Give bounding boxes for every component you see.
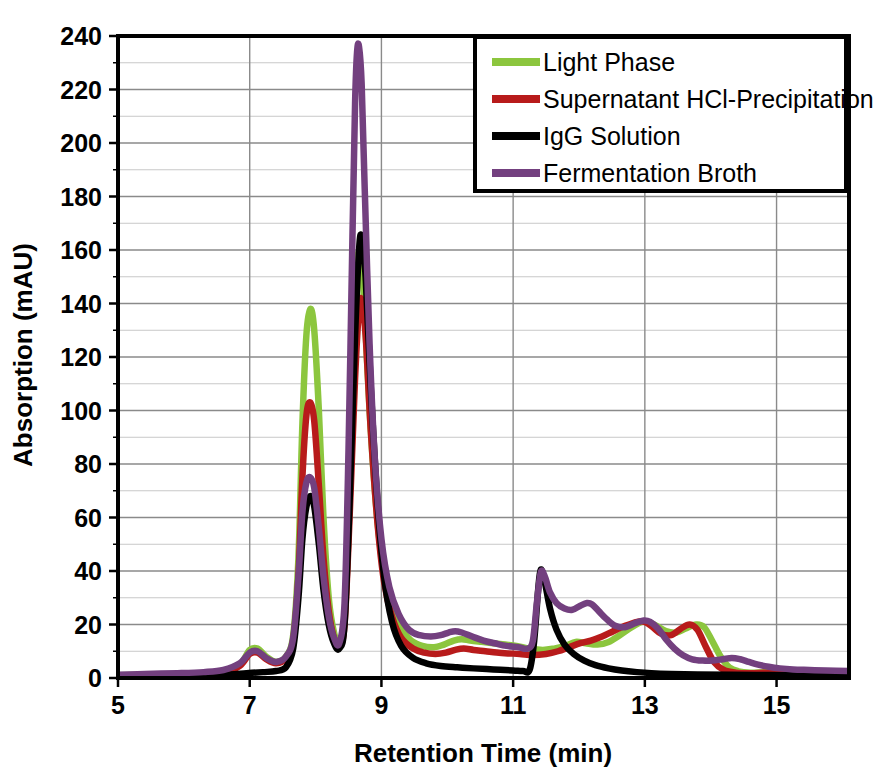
y-tick-label: 80	[74, 450, 102, 478]
chart-legend[interactable]: Light PhaseSupernatant HCl-Precipitation…	[475, 37, 874, 191]
x-tick-label: 11	[500, 691, 527, 719]
x-tick-label: 13	[631, 691, 659, 719]
y-tick-label: 180	[60, 183, 102, 211]
y-tick-label: 140	[60, 290, 102, 318]
legend-label: Supernatant HCl-Precipitation	[543, 85, 874, 113]
y-tick-label: 40	[74, 557, 102, 585]
x-tick-label: 9	[374, 691, 388, 719]
y-tick-label: 120	[60, 343, 102, 371]
x-tick-label: 5	[111, 691, 125, 719]
x-tick-label: 15	[763, 691, 791, 719]
y-tick-label: 20	[74, 611, 102, 639]
legend-label: IgG Solution	[543, 122, 681, 150]
y-tick-label: 240	[60, 22, 102, 50]
x-tick-label: 7	[243, 691, 257, 719]
y-tick-label: 160	[60, 236, 102, 264]
y-tick-label: 0	[88, 664, 102, 692]
legend-label: Fermentation Broth	[543, 159, 757, 187]
y-tick-label: 100	[60, 397, 102, 425]
x-axis-title: Retention Time (min)	[354, 738, 612, 768]
legend-label: Light Phase	[543, 48, 675, 76]
chromatogram-chart: 579111315 020406080100120140160180200220…	[0, 0, 875, 775]
y-tick-label: 200	[60, 129, 102, 157]
y-axis-title: Absorption (mAU)	[8, 243, 38, 467]
legend-item-supernatant-hcl-precipitation[interactable]: Supernatant HCl-Precipitation	[492, 85, 874, 113]
y-tick-label: 60	[74, 504, 102, 532]
y-tick-label: 220	[60, 76, 102, 104]
